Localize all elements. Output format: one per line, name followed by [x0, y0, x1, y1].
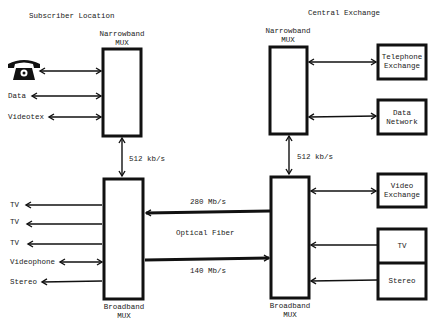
sub-broad-mux-label-1: Broadband: [104, 303, 145, 311]
ce-narrowband-mux: [270, 47, 307, 134]
ce-broad-mux-label-2: MUX: [283, 311, 297, 319]
optical-fiber-label: Optical Fiber: [176, 229, 235, 237]
ce-stereo-label: Stereo: [388, 277, 416, 285]
data-network-box: [378, 100, 426, 134]
data-label: Data: [8, 92, 27, 100]
tv-label-3: TV: [10, 239, 20, 247]
telecom-diagram: Subscriber Location Central Exchange Nar…: [0, 0, 432, 324]
ce-narrow-mux-label-1: Narrowband: [265, 27, 310, 35]
tv-label-2: TV: [10, 218, 20, 226]
central-exchange-title: Central Exchange: [308, 9, 380, 17]
ce-broad-mux-label-1: Broadband: [270, 302, 311, 310]
ce-stereo-link: [311, 280, 377, 281]
videophone-label: Videophone: [10, 258, 55, 266]
videotex-label: Videotex: [8, 113, 45, 121]
stereo-link: [42, 281, 102, 282]
ce-narrow-mux-label-2: MUX: [281, 36, 295, 44]
telephone-icon: [8, 60, 40, 80]
subscriber-location-title: Subscriber Location: [29, 12, 115, 20]
sub-narrow-mux-label-2: MUX: [115, 39, 129, 47]
data-network-label-1: Data: [393, 109, 412, 117]
ce-broadband-mux: [271, 177, 309, 298]
ce-512-label: 512 kb/s: [297, 153, 333, 161]
sub-narrow-mux-label-1: Narrowband: [99, 30, 144, 38]
stereo-label: Stereo: [10, 278, 38, 286]
sub-narrowband-mux: [103, 49, 141, 136]
telephone-exchange-label-2: Exchange: [384, 62, 420, 70]
upstream-rate-label: 140 Mb/s: [190, 267, 226, 275]
video-exchange-label-2: Exchange: [384, 191, 420, 199]
data-network-link: [309, 116, 376, 117]
telephone-exchange-label-1: Telephone: [382, 53, 423, 61]
video-exchange-label-1: Video: [391, 182, 414, 190]
sub-broadband-mux: [104, 179, 143, 299]
tv-label-1: TV: [10, 201, 20, 209]
sub-512-label: 512 kb/s: [129, 155, 165, 163]
downstream-rate-label: 280 Mb/s: [190, 198, 226, 206]
sub-broad-mux-label-2: MUX: [117, 312, 131, 320]
data-network-label-2: Network: [386, 118, 418, 126]
ce-tv-label: TV: [397, 242, 407, 250]
downstream-fiber: [146, 211, 270, 213]
upstream-fiber: [145, 258, 269, 260]
